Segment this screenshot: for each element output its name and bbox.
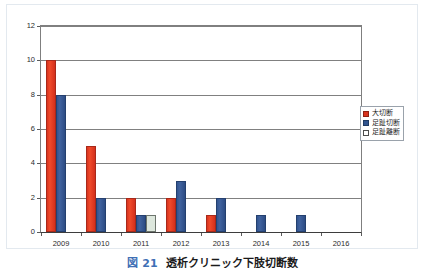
y-axis-tick-label: 12 [9,22,35,30]
gridline [41,129,361,130]
x-axis-tick-mark [241,233,242,236]
x-axis-tick-label: 2010 [81,239,121,248]
bar-2014-series1 [256,215,266,232]
gridline [41,26,361,27]
chart-frame: 024681012 200920102011201220132014201520… [6,4,418,249]
gridline [41,95,361,96]
bar-2011-series2 [146,215,156,232]
x-axis-tick-label: 2013 [201,239,241,248]
bar-2009-series1 [56,95,66,232]
x-axis-tick-mark [361,233,362,236]
bar-2011-series1 [136,215,146,232]
x-axis-tick-mark [81,233,82,236]
x-axis-tick-mark [41,233,42,236]
figure-caption: 図 21透析クリニック下肢切断数 [0,254,425,268]
figure-caption-text: 透析クリニック下肢切断数 [166,257,298,268]
legend-item: 大切断 [363,109,400,119]
bar-2012-series0 [166,198,176,232]
x-axis-tick-label: 2014 [241,239,281,248]
legend-swatch-icon [363,120,369,126]
legend-item-label: 足趾切断 [372,119,400,129]
x-axis-tick-mark [161,233,162,236]
x-axis-tick-mark [201,233,202,236]
legend-item: 足趾離断 [363,128,400,138]
x-axis-tick-mark [321,233,322,236]
legend-item-label: 足趾離断 [372,128,400,138]
y-axis-tick-label: 8 [9,91,35,99]
gridline [41,60,361,61]
x-axis-tick-mark [121,233,122,236]
legend-swatch-icon [363,111,369,117]
bar-2012-series1 [176,181,186,233]
x-axis-tick-label: 2016 [321,239,361,248]
legend-item-label: 大切断 [372,109,393,119]
y-axis-tick-label: 10 [9,56,35,64]
y-axis-tick-label: 0 [9,228,35,236]
y-axis-tick-label: 2 [9,194,35,202]
x-axis-tick-label: 2011 [121,239,161,248]
bar-2011-series0 [126,198,136,232]
x-axis-tick-mark [281,233,282,236]
legend-item: 足趾切断 [363,119,400,129]
bar-2010-series0 [86,146,96,232]
bar-2010-series1 [96,198,106,232]
bar-2013-series1 [216,198,226,232]
y-axis-tick-label: 4 [9,159,35,167]
x-axis: 20092010201120122013201420152016 [40,233,362,251]
figure-caption-number: 図 21 [127,257,157,268]
bar-2013-series0 [206,215,216,232]
chart-legend: 大切断足趾切断足趾離断 [360,106,404,141]
x-axis-tick-label: 2012 [161,239,201,248]
x-axis-tick-label: 2009 [41,239,81,248]
y-axis-tick-label: 6 [9,125,35,133]
x-axis-tick-label: 2015 [281,239,321,248]
chart-screenshot: 024681012 200920102011201220132014201520… [0,0,425,268]
legend-swatch-icon [363,130,369,136]
bar-2009-series0 [46,60,56,232]
bar-2015-series1 [296,215,306,232]
plot-area [40,25,362,233]
